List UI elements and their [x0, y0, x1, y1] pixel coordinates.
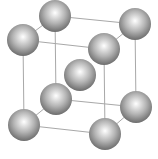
atom-bottom-front-right: [89, 118, 121, 150]
atom-bottom-back-left: [40, 83, 72, 115]
bcc-lattice-diagram: [0, 0, 158, 159]
atom-body-center: [64, 59, 96, 91]
atom-top-front-left: [7, 24, 39, 56]
atom-top-back-left: [39, 0, 71, 32]
atom-top-back-right: [119, 8, 151, 40]
atom-bottom-back-right: [120, 91, 152, 123]
lattice-canvas: [0, 0, 158, 159]
atom-top-front-right: [88, 33, 120, 65]
atom-bottom-front-left: [8, 109, 40, 141]
atoms: [7, 0, 152, 150]
